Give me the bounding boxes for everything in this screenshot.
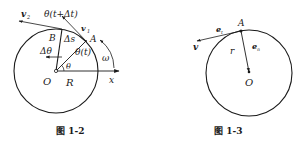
figure-1-2: v 2 θ(t+Δt) v 1 A B Δs Δθ θ(t) ω θ O R x… [14, 9, 119, 136]
label-point-a: A [237, 18, 245, 28]
label-radius: r [230, 46, 235, 56]
velocity-v2-arrow [19, 21, 62, 29]
label-point-b: B [48, 33, 56, 43]
label-delta-s: Δs [63, 34, 75, 44]
theta-angle-arc [62, 65, 64, 71]
label-origin: O [43, 76, 51, 87]
label-theta-t-plus-dt: θ(t+Δt) [44, 9, 78, 19]
label-point-a: A [89, 34, 97, 44]
label-theta: θ [66, 62, 71, 71]
origin-point [54, 69, 57, 72]
label-velocity: v [193, 42, 199, 52]
figure-1-3: A e t v r e n O 图 1-3 [193, 18, 292, 136]
label-e-n-sub: n [257, 47, 260, 52]
point-a-dot [240, 30, 243, 33]
caption-figure-1-2: 图 1-2 [56, 126, 84, 136]
label-v2-sub: 2 [26, 14, 30, 20]
label-origin: O [245, 77, 253, 88]
label-x-axis: x [109, 75, 114, 85]
origin-point [248, 71, 251, 74]
label-e-t-sub: t [221, 30, 223, 35]
point-a-dot [85, 40, 87, 42]
label-theta-t: θ(t) [75, 47, 92, 57]
radius-ob [56, 29, 62, 71]
label-delta-theta: Δθ [39, 46, 52, 56]
label-radius: R [65, 77, 74, 88]
caption-figure-1-3: 图 1-3 [214, 126, 242, 136]
label-omega: ω [102, 53, 110, 63]
normal-vector-arrow [241, 31, 249, 72]
label-v1: v [81, 23, 86, 33]
diagram-canvas: v 2 θ(t+Δt) v 1 A B Δs Δθ θ(t) ω θ O R x… [0, 0, 308, 144]
